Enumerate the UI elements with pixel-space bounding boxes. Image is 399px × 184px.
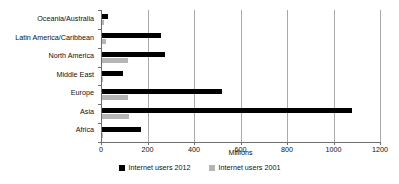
- bar-2001-0: [102, 20, 104, 25]
- gridline-600: [241, 10, 242, 142]
- bar-2001-1: [102, 39, 106, 44]
- bar-2012-3: [102, 71, 123, 76]
- y-tick-mark-6: [98, 123, 101, 124]
- legend-label-2001: Internet users 2001: [219, 164, 281, 172]
- y-axis-label-europe: Europe: [71, 89, 94, 97]
- plot-area: 020040060080010001200: [101, 10, 380, 142]
- y-axis-label-oceania-australia: Oceania/Australia: [37, 15, 94, 23]
- gridline-200: [148, 10, 149, 142]
- bar-2001-6: [102, 133, 103, 138]
- gridline-800: [287, 10, 288, 142]
- gridline-1200: [380, 10, 381, 142]
- legend-swatch-icon-2012: [119, 165, 125, 171]
- y-tick-mark-3: [98, 67, 101, 68]
- y-tick-mark-4: [98, 85, 101, 86]
- bar-2001-5: [102, 114, 129, 119]
- y-axis-label-middle-east: Middle East: [56, 71, 94, 79]
- y-axis-label-asia: Asia: [80, 108, 94, 116]
- bar-2012-6: [102, 127, 141, 132]
- legend-item-2012: Internet users 2012: [119, 164, 191, 172]
- bar-2001-3: [102, 77, 103, 82]
- bar-2012-4: [102, 89, 222, 94]
- legend: Internet users 2012 Internet users 2001: [0, 164, 399, 172]
- x-axis-title: Millions: [101, 148, 380, 157]
- bar-2012-5: [102, 108, 352, 113]
- bar-2012-1: [102, 33, 161, 38]
- gridline-400: [194, 10, 195, 142]
- y-axis-label-latin-america-caribbean: Latin America/Caribbean: [15, 34, 94, 42]
- gridline-1000: [334, 10, 335, 142]
- y-tick-mark-0: [98, 10, 101, 11]
- bar-2012-0: [102, 14, 108, 19]
- legend-item-2001: Internet users 2001: [209, 164, 281, 172]
- legend-swatch-icon-2001: [209, 165, 215, 171]
- bar-2001-2: [102, 58, 128, 63]
- y-tick-mark-1: [98, 29, 101, 30]
- bar-2012-2: [102, 52, 165, 57]
- y-tick-mark-2: [98, 48, 101, 49]
- bar-2001-4: [102, 95, 128, 100]
- y-axis-label-north-america: North America: [48, 52, 94, 60]
- legend-label-2012: Internet users 2012: [129, 164, 191, 172]
- y-tick-mark-5: [98, 104, 101, 105]
- y-axis-category-labels: Oceania/Australia Latin America/Caribbea…: [0, 10, 98, 142]
- y-axis-label-africa: Africa: [76, 126, 94, 134]
- bar-chart: Oceania/Australia Latin America/Caribbea…: [0, 0, 399, 184]
